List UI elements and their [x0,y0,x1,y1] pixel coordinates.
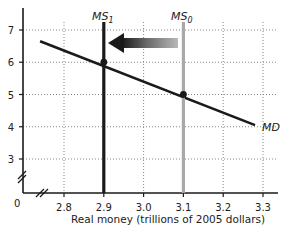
y-axis-break-icon [18,175,26,183]
y-tick-label: 3 [8,154,14,165]
md-label: MD [262,121,280,134]
x-tick-label: 2.8 [56,202,72,213]
equilibrium-0-point [180,91,187,98]
x-tick-label: 3.3 [255,202,271,213]
y-tick-label: 5 [8,90,14,101]
y-tick-label: 4 [8,122,14,133]
x-tick-label: 3.1 [175,202,191,213]
tick-labels: 2.82.93.03.13.23.334567 [8,25,271,213]
y-tick-label: 7 [8,25,14,36]
y-tick-label: 6 [8,57,14,68]
equilibrium-1-point [100,59,107,66]
ms1-label: MS1 [92,10,114,25]
x-tick-label: 3.2 [215,202,231,213]
shift-arrow-icon [108,33,178,53]
x-tick-label: 2.9 [96,202,112,213]
x-axis-title: Real money (trillions of 2005 dollars) [71,213,265,225]
axes [23,8,278,193]
origin-label: 0 [14,198,20,209]
y-axis-break-icon [18,171,26,179]
money-market-chart: 2.82.93.03.13.23.334567 0 Real money (tr… [0,0,292,231]
md-curve [40,41,255,125]
ms0-label: MS0 [171,10,193,25]
x-tick-label: 3.0 [136,202,152,213]
